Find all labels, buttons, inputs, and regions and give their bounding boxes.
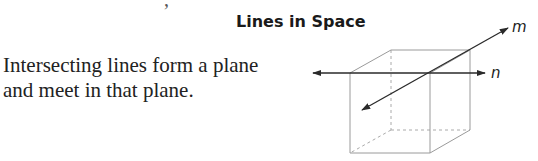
line-n: n [313,64,501,82]
cube-hidden-edges [350,50,470,153]
cube-visible-edges [350,50,470,153]
lines-in-space-diagram: n m [0,0,538,161]
line-n-label: n [491,64,501,82]
line-m-label: m [512,18,527,36]
cube [350,50,470,153]
line-m: m [362,18,527,110]
